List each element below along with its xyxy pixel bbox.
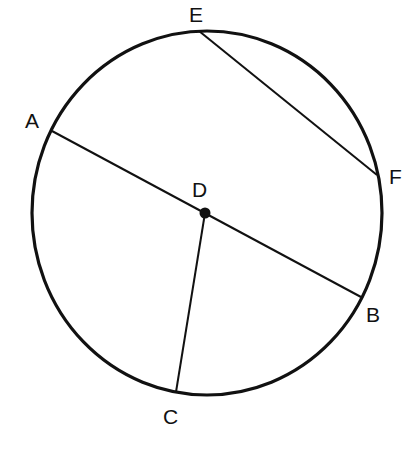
label-e: E: [189, 3, 203, 26]
label-d: D: [192, 178, 207, 201]
radius-dc: [176, 213, 205, 392]
label-f: F: [389, 165, 402, 188]
label-a: A: [25, 109, 39, 132]
label-b: B: [366, 303, 380, 326]
center-point-d: [200, 208, 211, 219]
label-c: C: [163, 405, 178, 428]
circle-diagram: A B C D E F: [0, 0, 413, 452]
